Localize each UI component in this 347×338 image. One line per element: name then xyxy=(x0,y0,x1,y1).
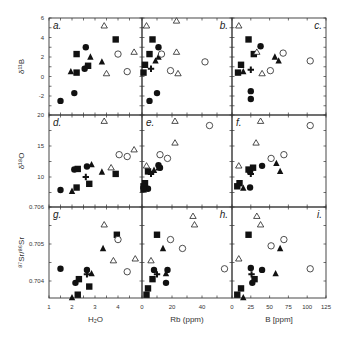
y-tick-label: -2 xyxy=(39,93,45,99)
y-tick-label: 0.705 xyxy=(29,241,45,247)
filled-square-marker xyxy=(142,62,148,68)
open-triangle-marker xyxy=(172,140,178,145)
filled-triangle-marker xyxy=(272,53,278,59)
filled-circle-marker xyxy=(248,265,254,271)
y-tick-label: 2 xyxy=(41,54,45,60)
y-tick-label: 0.706 xyxy=(29,204,45,210)
x-tick-label: 100 xyxy=(302,304,313,310)
open-circle-marker xyxy=(307,122,313,128)
y-tick-label: 20 xyxy=(37,112,44,118)
panel-frame xyxy=(142,207,232,298)
filled-square-marker xyxy=(145,285,151,291)
x-tick-label: 75 xyxy=(285,304,292,310)
x-tick-label: 125 xyxy=(321,304,332,310)
open-triangle-marker xyxy=(132,256,138,261)
open-triangle-marker xyxy=(101,118,107,123)
filled-circle-marker xyxy=(57,98,63,104)
open-circle-marker xyxy=(115,236,121,242)
filled-square-marker xyxy=(238,285,244,291)
filled-square-marker xyxy=(73,184,79,190)
panel-frame xyxy=(232,207,326,298)
filled-square-marker xyxy=(238,62,244,68)
panel-frame xyxy=(142,115,232,207)
cross-marker xyxy=(148,66,154,72)
data-points xyxy=(57,18,313,301)
open-circle-marker xyxy=(164,155,170,161)
filled-square-marker xyxy=(73,51,79,57)
scatter-matrix-figure: 1234H₂O02040Rb (ppm)0255075100125B [ppm]… xyxy=(0,0,347,338)
cross-marker xyxy=(83,174,89,180)
filled-square-marker xyxy=(235,69,241,75)
filled-triangle-marker xyxy=(160,245,166,251)
filled-square-marker xyxy=(234,183,240,189)
open-circle-marker xyxy=(281,236,287,242)
x-tick-label: 0 xyxy=(230,304,234,310)
filled-circle-marker xyxy=(57,187,63,193)
filled-square-marker xyxy=(140,69,146,75)
filled-triangle-marker xyxy=(272,270,278,276)
panel-frame xyxy=(49,115,142,207)
open-triangle-marker xyxy=(143,23,149,28)
filled-square-marker xyxy=(76,276,82,282)
open-circle-marker xyxy=(116,151,122,157)
filled-triangle-marker xyxy=(88,161,94,167)
y-tick-label: 10 xyxy=(37,174,44,180)
open-circle-marker xyxy=(167,236,173,242)
panel-label: f. xyxy=(236,117,242,128)
axis-labels: 1234H₂O02040Rb (ppm)0255075100125B [ppm]… xyxy=(17,15,332,324)
filled-square-marker xyxy=(245,232,251,238)
open-circle-marker xyxy=(124,269,130,275)
filled-square-marker xyxy=(86,283,92,289)
filled-square-marker xyxy=(146,51,152,57)
open-triangle-marker xyxy=(257,118,263,123)
x-tick-label: 4 xyxy=(116,304,120,310)
filled-circle-marker xyxy=(71,90,77,96)
filled-square-marker xyxy=(154,232,160,238)
panel-label: h. xyxy=(220,209,228,220)
filled-triangle-marker xyxy=(277,168,283,174)
filled-square-marker xyxy=(245,36,251,42)
open-circle-marker xyxy=(202,59,208,65)
x-tick-label: 50 xyxy=(266,304,273,310)
filled-triangle-marker xyxy=(273,160,279,166)
open-triangle-marker xyxy=(254,213,260,218)
y-tick-label: 15 xyxy=(37,143,44,149)
x-tick-label: 40 xyxy=(199,304,206,310)
open-triangle-marker xyxy=(257,222,263,227)
y-axis-label: ⁸⁷Sr/⁸⁶Sr xyxy=(17,237,26,268)
panel-label: a. xyxy=(53,20,61,31)
filled-circle-marker xyxy=(247,184,253,190)
open-triangle-marker xyxy=(108,165,114,170)
cross-marker xyxy=(248,66,254,72)
open-triangle-marker xyxy=(173,49,179,54)
panel-frame xyxy=(232,115,326,207)
open-triangle-marker xyxy=(173,18,179,23)
open-circle-marker xyxy=(179,245,185,251)
open-triangle-marker xyxy=(131,49,137,54)
open-circle-marker xyxy=(307,266,313,272)
open-triangle-marker xyxy=(110,257,116,262)
x-tick-label: 3 xyxy=(93,304,97,310)
x-axis-label: B [ppm] xyxy=(265,315,293,324)
open-triangle-marker xyxy=(236,23,242,28)
filled-square-marker xyxy=(149,36,155,42)
filled-triangle-marker xyxy=(99,168,105,174)
panel-label: i. xyxy=(317,209,322,220)
filled-triangle-marker xyxy=(277,245,283,251)
panel-label: e. xyxy=(146,117,154,128)
open-triangle-marker xyxy=(148,257,154,262)
filled-triangle-marker xyxy=(69,294,75,300)
open-triangle-marker xyxy=(175,70,181,75)
open-circle-marker xyxy=(115,51,121,57)
x-axis-label: Rb (ppm) xyxy=(170,315,204,324)
panel-label: g. xyxy=(53,209,61,220)
x-tick-label: 1 xyxy=(47,304,51,310)
open-circle-marker xyxy=(158,51,164,57)
filled-circle-marker xyxy=(248,88,254,94)
filled-circle-marker xyxy=(155,44,161,50)
y-tick-label: 0 xyxy=(41,74,45,80)
filled-triangle-marker xyxy=(68,68,74,74)
filled-square-marker xyxy=(140,186,146,192)
open-triangle-marker xyxy=(131,147,137,152)
panel-label: b. xyxy=(220,20,228,31)
